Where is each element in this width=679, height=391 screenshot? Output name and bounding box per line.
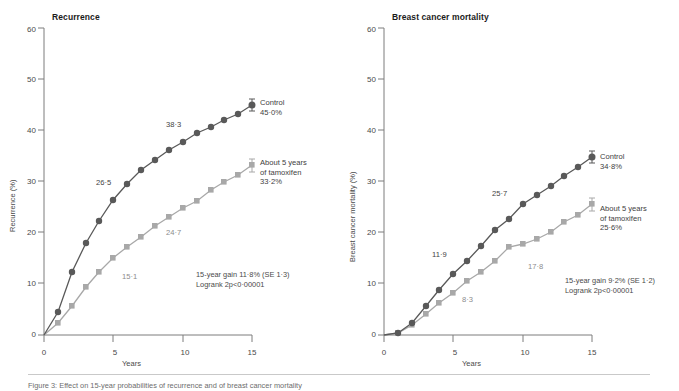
legend-tamoxifen-label-line2: of tamoxifen bbox=[260, 168, 307, 178]
stat-logrank: Logrank 2p<0·00001 bbox=[196, 280, 290, 290]
stats-block-recurrence: 15-year gain 11·8% (SE 1·3) Logrank 2p<0… bbox=[196, 270, 290, 290]
caption-divider bbox=[28, 374, 650, 375]
figure-caption: Figure 3: Effect on 15-year probabilitie… bbox=[28, 381, 302, 390]
legend-tamoxifen: About 5 years of tamoxifen 25·6% bbox=[600, 204, 647, 233]
series-tamoxifen-line bbox=[384, 204, 592, 335]
series-control-line bbox=[44, 105, 252, 335]
chart-recurrence: Recurrence Recurrence (%) 60 50 40 30 20… bbox=[0, 0, 340, 370]
annotation-tamoxifen-year5: 8·3 bbox=[462, 295, 473, 305]
stats-block-mortality: 15-year gain 9·2% (SE 1·2) Logrank 2p<0·… bbox=[565, 276, 655, 296]
legend-tamoxifen-label-line1: About 5 years bbox=[600, 204, 647, 214]
stat-logrank: Logrank 2p<0·00001 bbox=[565, 286, 655, 296]
annotation-control-year10: 25·7 bbox=[492, 189, 507, 199]
legend-tamoxifen-value: 33·2% bbox=[260, 177, 307, 187]
legend-tamoxifen: About 5 years of tamoxifen 33·2% bbox=[260, 158, 307, 187]
series-control-markers bbox=[395, 154, 596, 337]
stat-gain: 15-year gain 9·2% (SE 1·2) bbox=[565, 276, 655, 286]
series-control-line bbox=[384, 157, 592, 335]
plot-area-mortality bbox=[340, 0, 679, 370]
legend-tamoxifen-value: 25·6% bbox=[600, 223, 647, 233]
figure-panel: Recurrence Recurrence (%) 60 50 40 30 20… bbox=[0, 0, 679, 391]
annotation-tamoxifen-year5: 15·1 bbox=[122, 272, 137, 282]
legend-control-label: Control bbox=[600, 152, 624, 162]
series-tamoxifen-markers bbox=[395, 201, 595, 336]
legend-control-value: 45·0% bbox=[260, 108, 284, 118]
annotation-control-year10: 38·3 bbox=[166, 120, 181, 130]
legend-control: Control 34·8% bbox=[600, 152, 624, 171]
annotation-tamoxifen-year10: 24·7 bbox=[166, 228, 181, 238]
legend-tamoxifen-label-line2: of tamoxifen bbox=[600, 214, 647, 224]
chart-breast-cancer-mortality: Breast cancer mortality Breast cancer mo… bbox=[340, 0, 679, 370]
legend-control-label: Control bbox=[260, 98, 284, 108]
legend-control: Control 45·0% bbox=[260, 98, 284, 117]
legend-control-value: 34·8% bbox=[600, 162, 624, 172]
annotation-control-year5: 11·9 bbox=[432, 250, 447, 260]
annotation-tamoxifen-year10: 17·8 bbox=[528, 262, 543, 272]
series-tamoxifen-line bbox=[44, 165, 252, 335]
annotation-control-year5: 26·5 bbox=[96, 178, 111, 188]
legend-tamoxifen-label-line1: About 5 years bbox=[260, 158, 307, 168]
stat-gain: 15-year gain 11·8% (SE 1·3) bbox=[196, 270, 290, 280]
